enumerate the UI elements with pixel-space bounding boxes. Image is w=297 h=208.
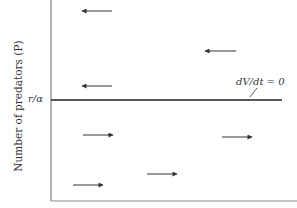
arrows-group xyxy=(73,11,252,185)
y-axis-label-text: Number of predators (P) xyxy=(12,40,24,171)
y-axis-label: Number of predators (P) xyxy=(12,36,24,176)
phase-diagram xyxy=(0,0,297,208)
y-level-label: r/α xyxy=(28,93,43,104)
isocline-label: dV/dt = 0 xyxy=(236,76,285,87)
isocline-pointer xyxy=(250,88,257,97)
